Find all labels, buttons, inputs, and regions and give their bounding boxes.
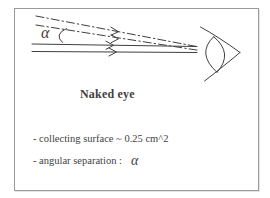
angle-alpha-label: α	[41, 25, 49, 41]
eye-lower-lid	[205, 53, 241, 82]
note-angular-separation-symbol: α	[131, 153, 138, 168]
eye-lens-left-arc	[206, 37, 217, 73]
slide: α Naked eye - collecting surface ~ 0.25 …	[0, 0, 270, 198]
note-collecting-surface: - collecting surface ~ 0.25 cm^2	[33, 132, 168, 145]
arrowhead-icon	[111, 35, 119, 43]
eye-icon	[201, 27, 241, 81]
ray-solid-upper	[32, 44, 197, 47]
angle-arc	[59, 29, 67, 43]
ray-solid-lower	[32, 52, 197, 53]
note-angular-separation-label: - angular separation :	[33, 155, 122, 166]
ray-dashdot-upper	[36, 16, 197, 47]
note-angular-separation: - angular separation :α	[33, 153, 138, 168]
diagram-caption: Naked eye	[80, 87, 135, 101]
